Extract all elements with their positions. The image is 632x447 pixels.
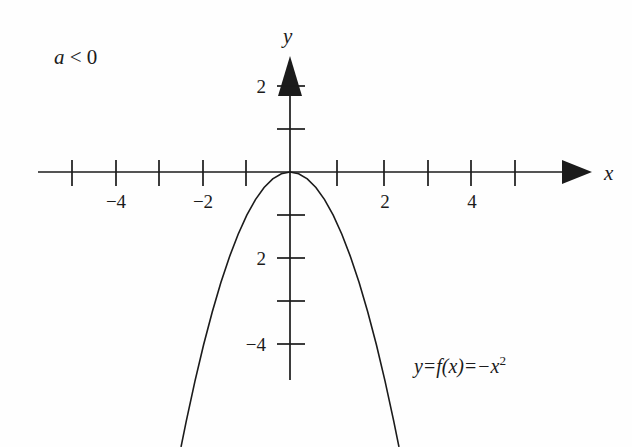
x-tick-label-neg4: −4 [96,192,136,211]
y-tick-label-neg4: −4 [229,335,266,354]
x-tick-label-pos4: 4 [452,192,492,211]
condition-relation: < 0 [65,45,98,69]
equation-annotation: y=f(x)=−x2 [414,356,506,376]
y-tick-label-pos2: 2 [236,77,266,96]
x-axis-arrowhead [562,160,592,184]
condition-variable: a [54,45,65,69]
equation-exponent: 2 [499,353,506,368]
equation-minus-sign: − [477,355,490,377]
equation-y: y [414,355,423,377]
y-axis-ticks [277,86,305,344]
x-axis-label: x [604,163,613,184]
figure-canvas: −4 −2 2 4 2 2 −4 x y a < 0 y=f(x)=−x2 [0,0,632,447]
equation-equals-first: = [423,355,436,377]
equation-argument: (x) [442,355,464,377]
y-axis-label: y [283,26,292,47]
x-tick-label-pos2: 2 [365,192,405,211]
x-tick-label-neg2: −2 [183,192,223,211]
y-axis-arrowhead [278,56,302,96]
condition-annotation: a < 0 [54,47,97,68]
y-tick-label-neg2: 2 [236,249,266,268]
equation-equals-second: = [464,355,477,377]
